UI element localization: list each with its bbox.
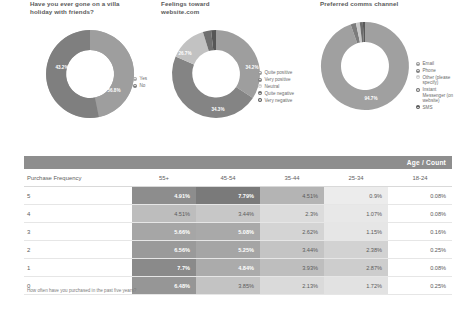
- cell: 7.79%: [196, 187, 260, 205]
- column-header-18-24[interactable]: 18-24: [388, 169, 452, 187]
- table-row: 5 4.91% 7.79% 4.51% 0.9% 0.08%: [24, 187, 452, 205]
- legend-dot-icon: [416, 105, 420, 109]
- legend-dot-icon: [133, 84, 137, 88]
- donut-villa-holiday: 56.8% 43.2%: [30, 24, 150, 124]
- cell: 6.56%: [132, 241, 196, 259]
- table-row: 4 4.51% 3.44% 2.3% 1.07% 0.08%: [24, 205, 452, 223]
- cell: 4.51%: [260, 187, 324, 205]
- legend-item-very-negative[interactable]: Very negative: [258, 98, 294, 103]
- chart-title-comms-channel: Preferred comms channel: [320, 0, 425, 8]
- cell: 0.08%: [388, 187, 452, 205]
- legend-dot-icon: [416, 75, 420, 79]
- slice-quite-positive: [216, 30, 260, 98]
- legend-item-neutral[interactable]: Neutral: [258, 84, 294, 89]
- slice-label-very-positive: 34.3%: [211, 107, 224, 112]
- chart-villa-holiday: Have you ever gone on a villa holiday wi…: [30, 0, 150, 124]
- cell: 2.62%: [260, 223, 324, 241]
- cell: 5.08%: [196, 223, 260, 241]
- age-count-table: Age / Count Purchase Frequency 55+ 45-54…: [24, 156, 452, 295]
- column-header-55plus[interactable]: 55+: [132, 169, 196, 187]
- charts-row: Have you ever gone on a villa holiday wi…: [0, 0, 476, 150]
- legend-item-other[interactable]: Other (please specify): [416, 75, 453, 86]
- legend-dot-icon: [258, 84, 262, 88]
- cell: 2.87%: [324, 259, 388, 277]
- cell: 5.66%: [132, 223, 196, 241]
- table-header-row: Purchase Frequency 55+ 45-54 35-44 25-34…: [24, 169, 452, 187]
- legend-dot-icon: [133, 77, 137, 81]
- cell: 3.93%: [260, 259, 324, 277]
- legend-label-other: Other (please specify): [423, 75, 451, 86]
- cell: 7.7%: [132, 259, 196, 277]
- legend-dot-icon: [416, 69, 420, 73]
- legend-item-quite-positive[interactable]: Quite positive: [258, 70, 294, 75]
- column-header-45-54[interactable]: 45-54: [196, 169, 260, 187]
- legend-label-quite-positive: Quite positive: [265, 70, 293, 75]
- donut-svg-villa-holiday: 56.8% 43.2%: [30, 24, 150, 124]
- legend-label-very-negative: Very negative: [265, 98, 293, 103]
- table-row: 3 5.66% 5.08% 2.62% 1.15% 0.16%: [24, 223, 452, 241]
- cell: 1.72%: [324, 277, 388, 295]
- legend-dot-icon: [258, 91, 262, 95]
- cell: 2.13%: [260, 277, 324, 295]
- legend-label-neutral: Neutral: [265, 84, 280, 89]
- legend-item-email[interactable]: Email: [416, 61, 453, 66]
- cell: 0.08%: [388, 205, 452, 223]
- legend-item-no[interactable]: No: [133, 83, 147, 88]
- donut-svg-feelings-website: 34.2% 34.3% 26.7%: [161, 24, 271, 124]
- cell: 0.9%: [324, 187, 388, 205]
- table-band-row: Age / Count: [24, 156, 452, 169]
- legend-item-very-positive[interactable]: Very positive: [258, 77, 294, 82]
- row-label: 3: [24, 223, 132, 241]
- table-body: 5 4.91% 7.79% 4.51% 0.9% 0.08% 4 4.51% 3…: [24, 187, 452, 295]
- chart-comms-channel: Preferred comms channel 94.7%: [320, 0, 425, 116]
- heatmap-table: Age / Count Purchase Frequency 55+ 45-54…: [24, 156, 452, 295]
- legend-dot-icon: [416, 88, 420, 92]
- legend-label-no: No: [140, 83, 146, 88]
- legend-item-instant-messenger[interactable]: Instant Messenger (on website): [416, 87, 453, 103]
- row-label: 2: [24, 241, 132, 259]
- cell: 0.25%: [388, 241, 452, 259]
- cell: 6.48%: [132, 277, 196, 295]
- legend-comms-channel: Email Phone Other (please specify) Insta…: [416, 61, 453, 112]
- legend-dot-icon: [258, 71, 262, 75]
- legend-label-quite-negative: Quite negative: [265, 91, 295, 96]
- slice-label-no: 43.2%: [55, 65, 68, 70]
- cell: 0.16%: [388, 223, 452, 241]
- cell: 1.07%: [324, 205, 388, 223]
- donut-svg-comms-channel: 94.7%: [320, 16, 420, 116]
- table-band-title: Age / Count: [24, 156, 452, 169]
- legend-item-yes[interactable]: Yes: [133, 76, 147, 81]
- cell: 4.91%: [132, 187, 196, 205]
- row-label: 4: [24, 205, 132, 223]
- cell: 1.15%: [324, 223, 388, 241]
- cell: 5.25%: [196, 241, 260, 259]
- column-header-purchase-frequency[interactable]: Purchase Frequency: [24, 169, 132, 187]
- legend-item-sms[interactable]: SMS: [416, 105, 453, 110]
- chart-title-villa-holiday: Have you ever gone on a villa holiday wi…: [30, 0, 145, 16]
- table-row: 2 6.56% 5.25% 3.44% 2.38% 0.25%: [24, 241, 452, 259]
- slice-yes-main: [90, 30, 134, 117]
- legend-label-very-positive: Very positive: [265, 77, 291, 82]
- cell: 2.3%: [260, 205, 324, 223]
- legend-label-yes: Yes: [140, 76, 148, 81]
- legend-feelings-website: Quite positive Very positive Neutral Qui…: [258, 70, 294, 105]
- legend-item-quite-negative[interactable]: Quite negative: [258, 91, 294, 96]
- chart-feelings-website: Feelings toward website.com 34.2% 34.3%: [161, 0, 271, 124]
- legend-label-sms: SMS: [423, 105, 433, 110]
- cell: 4.51%: [132, 205, 196, 223]
- table-footnote: How often have you purchased in the past…: [27, 288, 136, 293]
- column-header-35-44[interactable]: 35-44: [260, 169, 324, 187]
- cell: 2.38%: [324, 241, 388, 259]
- cell: 3.44%: [196, 205, 260, 223]
- donut-comms-channel: 94.7%: [320, 16, 425, 116]
- legend-dot-icon: [258, 98, 262, 102]
- cell: 4.84%: [196, 259, 260, 277]
- cell: 0.08%: [388, 259, 452, 277]
- column-header-25-34[interactable]: 25-34: [324, 169, 388, 187]
- legend-item-phone[interactable]: Phone: [416, 68, 453, 73]
- chart-title-feelings-website: Feelings toward website.com: [161, 0, 261, 16]
- legend-label-instant-messenger: Instant Messenger (on website): [423, 87, 454, 103]
- cell: 3.85%: [196, 277, 260, 295]
- row-label: 1: [24, 259, 132, 277]
- row-label: 5: [24, 187, 132, 205]
